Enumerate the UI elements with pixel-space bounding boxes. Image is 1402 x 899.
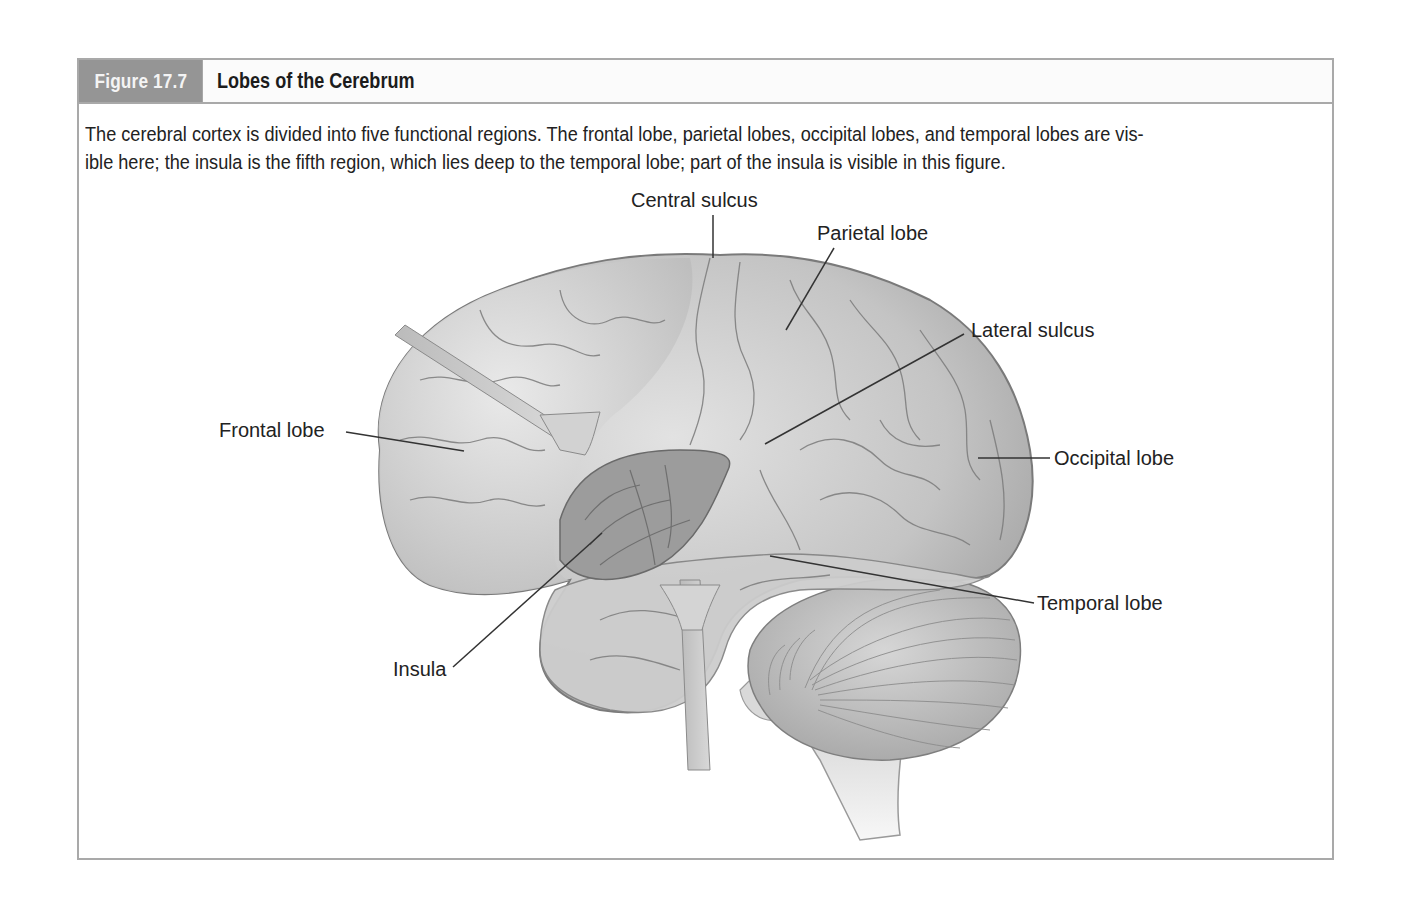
- figure-caption: The cerebral cortex is divided into five…: [85, 120, 1236, 176]
- figure-header: Figure 17.7 Lobes of the Cerebrum: [79, 60, 1332, 104]
- figure-container: Figure 17.7 Lobes of the Cerebrum The ce…: [77, 58, 1334, 860]
- figure-number: Figure 17.7: [79, 60, 203, 102]
- caption-line-2: ible here; the insula is the fifth regio…: [85, 148, 1236, 176]
- figure-title: Lobes of the Cerebrum: [217, 60, 414, 102]
- caption-line-1: The cerebral cortex is divided into five…: [85, 120, 1236, 148]
